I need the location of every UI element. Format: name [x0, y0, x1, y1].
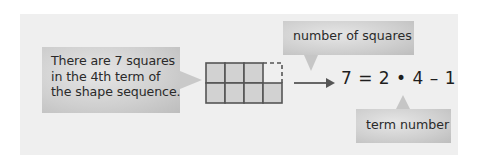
bottom-callout-pointer — [396, 95, 410, 109]
statement-line: in the 4th term of — [51, 69, 180, 85]
arrow-icon — [294, 78, 335, 88]
number-of-squares-label: number of squares — [283, 21, 414, 55]
top-callout-pointer — [304, 55, 318, 71]
statement-line: There are 7 squares — [51, 53, 180, 69]
square-grid — [206, 63, 282, 103]
statement-callout: There are 7 squares in the 4th term of t… — [42, 47, 180, 113]
equation: 7 = 2 • 4 – 1 — [341, 68, 456, 88]
dashed-square — [263, 63, 282, 83]
statement-line: the shape sequence. — [51, 84, 180, 100]
term-number-label: term number — [356, 109, 451, 143]
callout-pointer — [180, 71, 202, 89]
